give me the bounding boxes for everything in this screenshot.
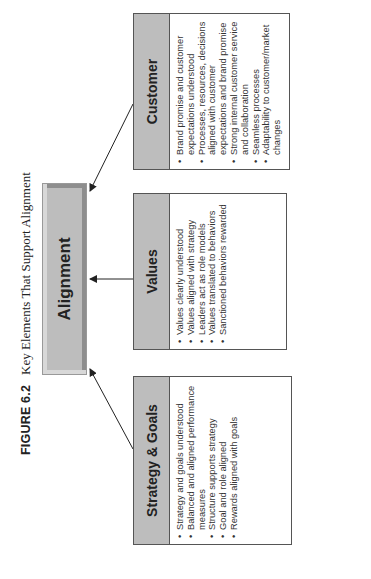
list-item: Seamless processes	[251, 20, 262, 155]
strategy-goals-list: Strategy and goals understood Balanced a…	[170, 377, 244, 544]
alignment-box: Alignment	[42, 183, 87, 375]
customer-list: Brand promise and customer expectations …	[170, 14, 287, 169]
list-item: Goal and role aligned	[218, 383, 229, 530]
list-item: Leaders act as role models	[197, 200, 208, 335]
list-item: Values aligned with strategy	[186, 200, 197, 335]
values-list: Values clearly understood Values aligned…	[170, 194, 233, 349]
list-item: Strong internal customer service and col…	[229, 20, 251, 155]
values-box: Values Values clearly understood Values …	[133, 193, 287, 350]
list-item: Structure supports strategy	[207, 383, 218, 530]
list-item: Values clearly understood	[175, 200, 186, 335]
figure-canvas: FIGURE 6.2Key Elements That Support Alig…	[0, 0, 371, 579]
arrow-customer	[90, 104, 133, 191]
list-item: Values translated to behaviors	[207, 200, 218, 335]
arrow-strategy	[90, 369, 133, 449]
list-item: Rewards aligned with goals	[229, 383, 240, 530]
list-item: Sanctioned behaviors rewarded	[218, 200, 229, 335]
strategy-goals-box: Strategy & Goals Strategy and goals unde…	[133, 376, 292, 545]
list-item: Processes, resources, decisions aligned …	[197, 20, 229, 155]
alignment-label: Alignment	[55, 237, 75, 320]
strategy-goals-header: Strategy & Goals	[134, 377, 170, 544]
list-item: Balanced and aligned performance measure…	[186, 383, 208, 530]
customer-box: Customer Brand promise and customer expe…	[133, 13, 290, 170]
customer-header: Customer	[134, 14, 170, 169]
list-item: Adaptability to customer/market changes	[261, 20, 283, 155]
list-item: Brand promise and customer expectations …	[175, 20, 197, 155]
values-header: Values	[134, 194, 170, 349]
list-item: Strategy and goals understood	[175, 383, 186, 530]
